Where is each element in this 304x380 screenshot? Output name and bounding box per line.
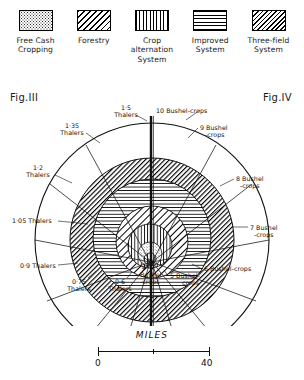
legend-swatch-forestry <box>77 10 111 31</box>
label-0-6-thalers: 0·6 <box>115 278 125 285</box>
label-1-5-thalers: 1·5 <box>121 104 131 111</box>
scale-bar-rule-group: 0 40 <box>98 347 210 356</box>
label-1-35-thalers: 1·35 <box>65 122 79 129</box>
label-9-bushel-crops: 9 Bushel <box>200 124 228 131</box>
legend-item-improved-system: ImprovedSystem <box>183 10 238 64</box>
label-1-5-thalers-2: Thalers <box>113 111 138 118</box>
label-4-bushel-crops-2: Bushel <box>140 271 162 278</box>
legend-item-three-field-system: Three-fieldSystem <box>241 10 296 64</box>
von-thunen-diagram: 1·5 Thalers 1·35 Thalers 1·2 Thalers 1·0… <box>0 88 304 326</box>
label-4-bushel-crops-3: -crops <box>140 278 160 286</box>
label-8-bushel-crops: 8 Bushel <box>236 175 264 182</box>
label-6-bushel-crops: 6 Bushel-crops <box>204 265 251 273</box>
scale-value-min: 0 <box>95 358 101 368</box>
scale-tick-mid <box>153 349 154 354</box>
label-1-2-thalers: 1·2 <box>33 164 43 171</box>
label-7-bushel-crops-2: -crops <box>254 231 274 239</box>
legend-swatch-free-cash-cropping <box>19 10 53 31</box>
label-1-05-thalers: 1·05 Thalers <box>12 217 52 224</box>
legend-label-three-field-system: Three-fieldSystem <box>248 36 290 55</box>
scale-bar-rule <box>98 351 210 352</box>
scale-tick-end <box>209 347 210 356</box>
label-1-2-thalers-2: Thalers <box>25 171 50 178</box>
legend-label-crop-alternation-system: CropalternationSystem <box>131 36 174 64</box>
legend: Free CashCropping Forestry Cropalternati… <box>0 10 304 64</box>
label-5-bushel-crops-2: crops <box>182 279 199 287</box>
label-0-9-thalers: 0·9 Thalers <box>20 262 56 269</box>
legend-label-improved-system: ImprovedSystem <box>192 36 229 55</box>
scale-tick-start <box>98 347 99 356</box>
scale-value-max: 40 <box>201 358 212 368</box>
label-10-bushel-crops: 10 Bushel-crops <box>156 107 207 115</box>
label-0-75-thalers-2: Thalers <box>66 285 91 292</box>
scale-bar-title: MILES <box>0 330 304 340</box>
label-0-6-thalers-2: Thalers <box>107 285 132 292</box>
label-8-bushel-crops-2: -crops <box>240 182 260 190</box>
label-9-bushel-crops-2: -crops <box>205 131 225 139</box>
scale-bar: MILES 0 40 <box>0 330 304 376</box>
legend-swatch-crop-alternation-system <box>135 10 169 31</box>
legend-swatch-three-field-system <box>252 10 286 31</box>
legend-label-forestry: Forestry <box>78 36 110 45</box>
legend-item-free-cash-cropping: Free CashCropping <box>8 10 63 64</box>
label-5-bushel-crops: 5 Bushel- <box>170 272 200 279</box>
legend-item-crop-alternation-system: CropalternationSystem <box>125 10 180 64</box>
legend-item-forestry: Forestry <box>66 10 121 64</box>
legend-swatch-improved-system <box>193 10 227 31</box>
label-1-35-thalers-2: Thalers <box>59 129 84 136</box>
label-0-75-thalers: 0·75 <box>72 278 86 285</box>
legend-label-free-cash-cropping: Free CashCropping <box>16 36 54 55</box>
label-4-bushel-crops: 4 <box>142 264 146 271</box>
leader-l1 <box>136 115 147 121</box>
label-7-bushel-crops: 7 Bushel <box>250 224 278 231</box>
